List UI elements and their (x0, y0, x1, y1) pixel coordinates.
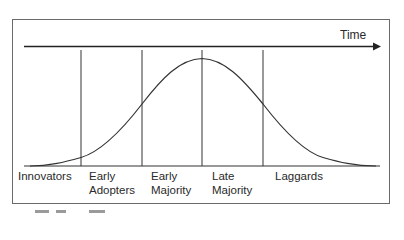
category-early-majority-line1: Early (151, 169, 177, 183)
category-late-majority-line2: Majority (212, 183, 252, 197)
category-laggards: Laggards (275, 169, 323, 183)
caption-fragment (35, 210, 49, 213)
category-early-adopters-line2: Adopters (89, 183, 135, 197)
time-axis-label: Time (340, 28, 366, 42)
arrow-head-icon (373, 43, 381, 51)
bell-curve (30, 59, 376, 167)
caption-fragment (89, 210, 105, 213)
caption-fragment (56, 210, 66, 213)
category-late-majority-line1: Late (212, 169, 234, 183)
category-innovators: Innovators (18, 169, 72, 183)
category-early-adopters-line1: Early (89, 169, 115, 183)
category-early-majority-line2: Majority (151, 183, 191, 197)
